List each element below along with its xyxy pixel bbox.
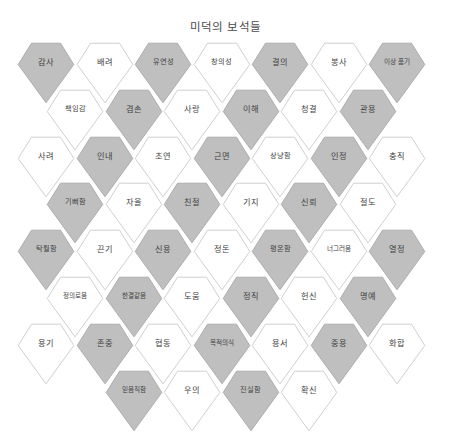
diamond-filled-icon	[105, 370, 163, 432]
gem-8-3[interactable]: 진실함	[222, 370, 280, 432]
page-title: 미덕의 보석들	[0, 18, 451, 34]
gem-8-1[interactable]: 믿음직함	[105, 370, 163, 432]
gem-8-4[interactable]: 확신	[280, 370, 338, 432]
virtues-gems-diagram: 미덕의 보석들 감사배려유연성창의성결의봉사이상 품기책임감겸손사랑이해청결관용…	[0, 0, 451, 441]
gem-grid: 감사배려유연성창의성결의봉사이상 품기책임감겸손사랑이해청결관용사려인내초연근면…	[0, 42, 451, 441]
gem-8-2[interactable]: 우의	[163, 370, 221, 432]
diamond-outline-icon	[163, 370, 221, 432]
diamond-filled-icon	[222, 370, 280, 432]
gem-row: 믿음직함우의진실함확신	[0, 370, 451, 432]
diamond-outline-icon	[280, 370, 338, 432]
